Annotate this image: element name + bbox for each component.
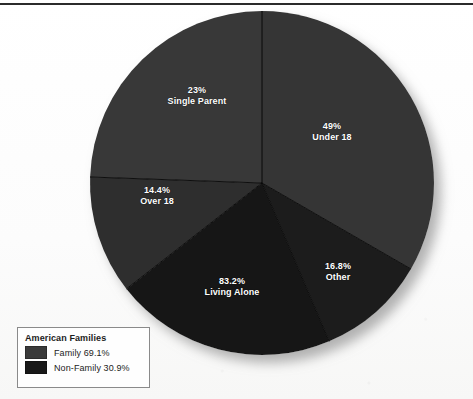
slice-label-under-18: 49% Under 18 xyxy=(312,121,351,143)
slice-name: Living Alone xyxy=(205,287,260,298)
legend-swatch-family xyxy=(25,346,47,359)
slice-label-single-parent: 23% Single Parent xyxy=(168,85,227,107)
slice-percent: 23% xyxy=(168,85,227,96)
legend-title: American Families xyxy=(25,333,143,343)
slice-percent: 14.4% xyxy=(140,185,174,196)
slice-label-other: 16.8% Other xyxy=(325,261,351,283)
slice-name: Other xyxy=(325,272,351,283)
slice-percent: 83.2% xyxy=(205,276,260,287)
legend-box: American Families Family 69.1% Non-Famil… xyxy=(17,327,150,388)
legend-swatch-non-family xyxy=(25,361,47,374)
slice-percent: 49% xyxy=(312,121,351,132)
slice-name: Over 18 xyxy=(140,196,174,207)
legend-label-family: Family 69.1% xyxy=(54,348,110,358)
slice-name: Under 18 xyxy=(312,132,351,143)
figure-page: 49% Under 18 16.8% Other 83.2% Living Al… xyxy=(0,0,473,399)
slice-percent: 16.8% xyxy=(325,261,351,272)
slice-label-living-alone: 83.2% Living Alone xyxy=(205,276,260,298)
legend-item-non-family: Non-Family 30.9% xyxy=(25,361,143,374)
legend-label-non-family: Non-Family 30.9% xyxy=(54,363,130,373)
legend-item-family: Family 69.1% xyxy=(25,346,143,359)
slice-name: Single Parent xyxy=(168,96,227,107)
slice-label-over-18: 14.4% Over 18 xyxy=(140,185,174,207)
